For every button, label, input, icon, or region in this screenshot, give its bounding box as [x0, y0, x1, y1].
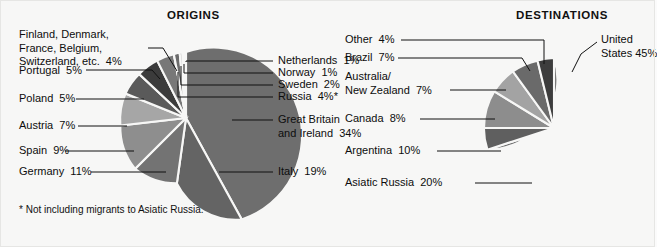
label-finland-group: Finland, Denmark, France, Belgium, Switz… — [19, 28, 122, 69]
label-brazil: Brazil 7% — [345, 51, 395, 65]
label-australia-new-zealand: Australia/ New Zealand 7% — [345, 70, 432, 97]
label-germany: Germany 11% — [19, 165, 92, 179]
label-russia: Russia 4%* — [278, 90, 338, 104]
label-italy: Italy 19% — [278, 165, 326, 179]
label-other: Other 4% — [345, 33, 395, 47]
label-asiatic-russia: Asiatic Russia 20% — [345, 176, 442, 190]
label-argentina: Argentina 10% — [345, 144, 420, 158]
label-spain: Spain 9% — [19, 144, 69, 158]
label-portugal: Portugal 5% — [19, 64, 82, 78]
label-poland: Poland 5% — [19, 92, 75, 106]
leader-united-states — [572, 42, 597, 72]
label-austria: Austria 7% — [19, 119, 75, 133]
leader-other — [401, 40, 544, 64]
pie-chart-destinations — [484, 58, 557, 150]
footnote-asiatic-russia: * Not including migrants to Asiatic Russ… — [19, 204, 204, 215]
label-united-states: United States 45% — [601, 33, 657, 60]
label-canada: Canada 8% — [345, 112, 406, 126]
